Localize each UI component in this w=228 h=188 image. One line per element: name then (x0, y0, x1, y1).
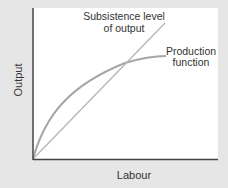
chart: Subsistence level of output Production f… (0, 0, 228, 188)
production-label-line2: function (173, 56, 210, 68)
subsistence-label-line1: Subsistence level (83, 10, 165, 22)
subsistence-label-line2: of output (104, 22, 145, 34)
y-axis-label: Output (12, 63, 24, 96)
x-axis-label: Labour (117, 169, 152, 181)
